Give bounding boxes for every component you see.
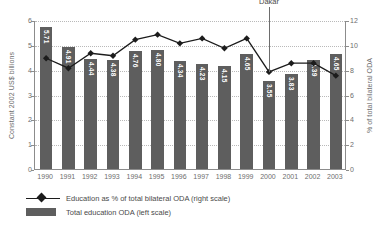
- legend-item-bar: Total education ODA (left scale): [26, 205, 230, 219]
- line-marker: [154, 31, 160, 37]
- x-tick-label: 2001: [279, 173, 301, 180]
- x-tick-label: 1990: [34, 173, 56, 180]
- y-tick-label-right: 4: [350, 116, 374, 123]
- x-tick-label: 1995: [145, 173, 167, 180]
- chart-figure: Constant 2002 US$ billions % of total bi…: [0, 0, 382, 236]
- line-marker: [288, 60, 294, 66]
- x-tick-label: 1999: [235, 173, 257, 180]
- y-tick-label-right: 6: [350, 92, 374, 99]
- y-tick-label-right: 8: [350, 67, 374, 74]
- y-tick-mark-right: [346, 170, 349, 171]
- line-marker: [43, 55, 49, 61]
- line-marker: [221, 45, 227, 51]
- legend-label-bar: Total education ODA (left scale): [66, 208, 171, 217]
- y-tick-label-left: 1: [8, 141, 32, 148]
- line-marker: [177, 40, 183, 46]
- y-tick-label-right: 10: [350, 42, 374, 49]
- y-tick-label-left: 3: [8, 92, 32, 99]
- line-marker: [199, 35, 205, 41]
- y-tick-label-left: 4: [8, 67, 32, 74]
- annotation-label-dakar: Dakar: [259, 0, 279, 6]
- y-tick-label-left: 0: [8, 166, 32, 173]
- annotation-line-dakar: [269, 7, 270, 72]
- x-tick-label: 1993: [101, 173, 123, 180]
- x-tick-label: 2002: [301, 173, 323, 180]
- x-tick-label: 2003: [324, 173, 346, 180]
- y-tick-label-right: 0: [350, 166, 374, 173]
- bar-swatch-icon: [26, 206, 60, 218]
- y-tick-label-left: 2: [8, 116, 32, 123]
- plot-area: 5.714.914.444.384.764.804.344.234.154.65…: [34, 21, 346, 170]
- x-tick-label: 1992: [79, 173, 101, 180]
- x-tick-label: 1998: [212, 173, 234, 180]
- y-tick-mark-left: [31, 170, 34, 171]
- line-marker: [333, 72, 339, 78]
- x-tick-label: 2000: [257, 173, 279, 180]
- y-tick-label-left: 5: [8, 42, 32, 49]
- legend-label-line: Education as % of total bilateral ODA (r…: [66, 194, 230, 203]
- x-tick-label: 1996: [168, 173, 190, 180]
- x-tick-label: 1991: [56, 173, 78, 180]
- x-tick-label: 1994: [123, 173, 145, 180]
- y-tick-label-right: 12: [350, 17, 374, 24]
- legend-item-line: Education as % of total bilateral ODA (r…: [26, 191, 230, 205]
- y-tick-label-right: 2: [350, 141, 374, 148]
- line-marker: [310, 60, 316, 66]
- line-marker-icon: [26, 192, 60, 204]
- x-tick-label: 1997: [190, 173, 212, 180]
- chart-legend: Education as % of total bilateral ODA (r…: [26, 191, 230, 219]
- y-tick-label-left: 6: [8, 17, 32, 24]
- line-series: [35, 21, 347, 170]
